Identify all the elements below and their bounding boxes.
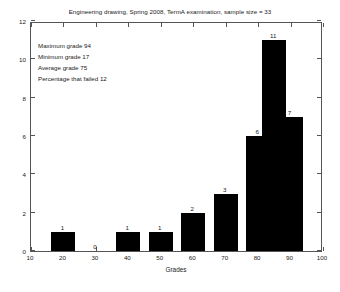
stat-minimum-grade: Minimum grade 17 [38,51,107,62]
stat-maximum-grade: Maximum grade 94 [38,40,107,51]
x-tick-mark-top [63,23,64,27]
y-tick-mark [31,212,35,213]
histogram-bar [51,232,75,251]
x-tick-mark-top [291,23,292,27]
y-tick-mark-right [317,135,321,136]
y-tick-label: 12 [4,18,26,26]
histogram-bar [116,232,140,251]
x-tick-label: 90 [277,254,303,262]
y-tick-mark [31,20,35,21]
bar-value-label: 2 [180,205,204,213]
y-tick-mark [31,135,35,136]
stat-average-grade: Average grade 75 [38,62,107,73]
y-tick-label: 4 [4,171,26,179]
y-tick-mark-right [317,173,321,174]
x-tick-label: 20 [49,254,75,262]
x-tick-mark-top [226,23,227,27]
y-tick-label: 2 [4,210,26,218]
y-tick-mark [31,250,35,251]
histogram-bar [181,213,205,251]
histogram-bar [149,232,173,251]
x-tick-label: 50 [147,254,173,262]
y-tick-mark-right [317,20,321,21]
y-tick-label: 10 [4,56,26,64]
x-tick-label: 100 [309,254,335,262]
x-tick-mark-top [161,23,162,27]
y-tick-label: 6 [4,133,26,141]
bar-value-label: 1 [115,224,139,232]
y-tick-mark-right [317,212,321,213]
y-tick-label: 8 [4,95,26,103]
x-tick-label: 40 [114,254,140,262]
bar-value-label: 3 [213,186,237,194]
x-tick-mark-top [31,23,32,27]
bar-value-label: 1 [50,224,74,232]
y-tick-mark-right [317,250,321,251]
bar-value-label: 0 [83,243,107,251]
x-tick-label: 30 [82,254,108,262]
bar-value-label: 11 [261,32,285,40]
stats-annotation: Maximum grade 94 Minimum grade 17 Averag… [38,40,107,84]
y-tick-mark [31,173,35,174]
histogram-bar [214,194,238,252]
y-tick-mark [31,58,35,59]
histogram-figure: Engineering drawing, Spring 2008, TermA … [0,0,340,292]
x-tick-mark [323,247,324,251]
x-tick-mark-top [323,23,324,27]
x-tick-label: 70 [212,254,238,262]
histogram-bar [279,117,303,251]
chart-title: Engineering drawing, Spring 2008, TermA … [0,7,340,16]
bar-value-label: 1 [148,224,172,232]
bar-value-label: 6 [245,128,269,136]
x-tick-mark-top [193,23,194,27]
y-tick-label: 0 [4,248,26,256]
x-tick-label: 80 [244,254,270,262]
x-tick-mark-top [128,23,129,27]
y-tick-mark-right [317,58,321,59]
y-tick-mark-right [317,97,321,98]
x-tick-label: 60 [179,254,205,262]
x-tick-mark-top [258,23,259,27]
y-tick-mark [31,97,35,98]
stat-percentage-failed: Percentage that failed 12 [38,73,107,84]
bar-value-label: 7 [278,109,302,117]
x-axis-label: Grades [30,266,322,273]
x-tick-mark-top [96,23,97,27]
